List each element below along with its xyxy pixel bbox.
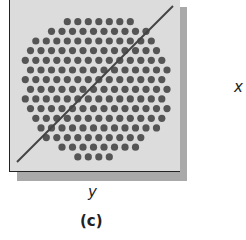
data-point	[53, 134, 60, 141]
data-point	[58, 86, 65, 93]
data-point	[95, 37, 102, 44]
data-point	[127, 37, 134, 44]
data-point	[58, 66, 65, 73]
data-point	[106, 115, 113, 122]
data-point	[132, 28, 139, 35]
data-point	[27, 47, 34, 54]
data-point	[79, 124, 86, 131]
data-point	[69, 124, 76, 131]
data-point	[43, 95, 50, 102]
data-point	[58, 28, 65, 35]
data-point	[27, 66, 34, 73]
data-point	[132, 124, 139, 131]
data-point	[90, 47, 97, 54]
data-point	[95, 95, 102, 102]
data-point	[111, 124, 118, 131]
data-point	[79, 144, 86, 151]
data-point	[90, 66, 97, 73]
data-point	[37, 105, 44, 112]
data-point	[53, 57, 60, 64]
data-point	[111, 105, 118, 112]
data-point	[48, 66, 55, 73]
data-point	[121, 86, 128, 93]
data-point	[58, 144, 65, 151]
data-point	[148, 95, 155, 102]
data-point	[95, 57, 102, 64]
data-point	[58, 47, 65, 54]
data-point	[64, 18, 71, 25]
data-point	[95, 134, 102, 141]
data-point	[153, 86, 160, 93]
data-point	[153, 66, 160, 73]
data-point	[163, 86, 170, 93]
data-point	[95, 153, 102, 160]
data-point	[158, 95, 165, 102]
data-point	[85, 95, 92, 102]
data-point	[85, 153, 92, 160]
data-point	[153, 47, 160, 54]
data-point	[116, 76, 123, 83]
data-point	[142, 105, 149, 112]
data-point	[74, 57, 81, 64]
data-point	[85, 18, 92, 25]
data-point	[121, 66, 128, 73]
data-point	[74, 18, 81, 25]
data-point	[148, 37, 155, 44]
data-point	[74, 37, 81, 44]
data-point	[148, 115, 155, 122]
data-point	[90, 124, 97, 131]
data-point	[100, 124, 107, 131]
data-point	[106, 57, 113, 64]
data-point	[58, 105, 65, 112]
data-point	[121, 28, 128, 35]
data-point	[69, 86, 76, 93]
data-point	[106, 18, 113, 25]
data-point	[43, 76, 50, 83]
data-point	[132, 144, 139, 151]
data-point	[153, 124, 160, 131]
data-point	[48, 28, 55, 35]
data-point	[22, 57, 29, 64]
x-axis-label: x	[234, 78, 243, 96]
data-point	[48, 47, 55, 54]
data-point	[32, 57, 39, 64]
data-point	[64, 134, 71, 141]
data-point	[22, 95, 29, 102]
data-point	[116, 115, 123, 122]
data-point	[142, 47, 149, 54]
data-point	[79, 28, 86, 35]
data-point	[48, 86, 55, 93]
data-point	[127, 76, 134, 83]
data-point	[37, 66, 44, 73]
data-point	[64, 95, 71, 102]
data-point	[158, 76, 165, 83]
data-point	[69, 66, 76, 73]
data-point	[43, 115, 50, 122]
data-point	[163, 66, 170, 73]
data-point	[79, 105, 86, 112]
data-point	[85, 37, 92, 44]
data-point	[32, 37, 39, 44]
data-point	[53, 76, 60, 83]
data-point	[111, 28, 118, 35]
data-point	[69, 28, 76, 35]
data-point	[64, 57, 71, 64]
data-point	[64, 37, 71, 44]
data-point	[121, 124, 128, 131]
data-point	[121, 144, 128, 151]
data-point	[74, 134, 81, 141]
y-axis-label: y	[88, 183, 97, 201]
data-point	[137, 134, 144, 141]
scatter-plot	[0, 0, 246, 240]
data-point	[111, 144, 118, 151]
data-point	[32, 76, 39, 83]
data-point	[74, 76, 81, 83]
data-point	[127, 95, 134, 102]
data-point	[116, 134, 123, 141]
data-point	[127, 115, 134, 122]
data-point	[100, 144, 107, 151]
data-point	[116, 37, 123, 44]
data-point	[100, 47, 107, 54]
data-point	[100, 105, 107, 112]
data-point	[106, 153, 113, 160]
